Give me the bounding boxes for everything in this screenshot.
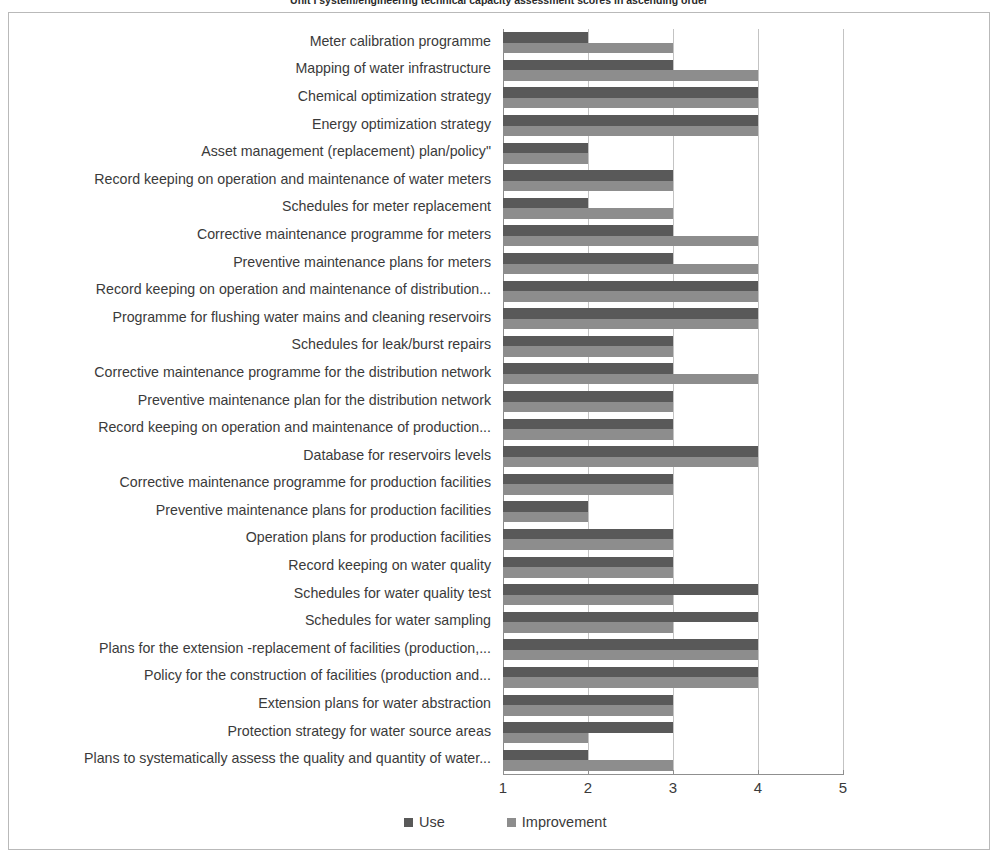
category-label: Record keeping on operation and maintena… <box>94 172 491 187</box>
bar-use[interactable] <box>503 225 673 236</box>
bar-use[interactable] <box>503 198 588 209</box>
bar-use[interactable] <box>503 695 673 706</box>
legend-entry-use: Use <box>404 814 445 830</box>
gridline-3 <box>673 29 674 774</box>
bar-use[interactable] <box>503 60 673 71</box>
bar-improvement[interactable] <box>503 346 673 357</box>
bar-improvement[interactable] <box>503 208 673 219</box>
legend-entry-improvement: Improvement <box>507 814 607 830</box>
bar-improvement[interactable] <box>503 402 673 413</box>
bar-use[interactable] <box>503 529 673 540</box>
bar-use[interactable] <box>503 308 758 319</box>
bar-use[interactable] <box>503 32 588 43</box>
bar-use[interactable] <box>503 363 673 374</box>
x-tick-1 <box>503 770 504 775</box>
bar-improvement[interactable] <box>503 677 758 688</box>
category-label: Database for reservoirs levels <box>303 448 491 463</box>
legend-swatch-improvement-icon <box>507 818 516 827</box>
category-label: Corrective maintenance programme for met… <box>197 227 491 242</box>
bar-use[interactable] <box>503 281 758 292</box>
bar-improvement[interactable] <box>503 291 758 302</box>
bar-improvement[interactable] <box>503 70 758 81</box>
category-label: Policy for the construction of facilitie… <box>144 668 491 683</box>
category-label: Preventive maintenance plans for product… <box>156 503 491 518</box>
category-label: Asset management (replacement) plan/poli… <box>201 144 491 159</box>
bar-use[interactable] <box>503 474 673 485</box>
bar-improvement[interactable] <box>503 43 673 54</box>
bar-improvement[interactable] <box>503 236 758 247</box>
bar-improvement[interactable] <box>503 319 758 330</box>
category-label: Extension plans for water abstraction <box>258 696 491 711</box>
x-axis-line <box>503 774 843 775</box>
bar-use[interactable] <box>503 87 758 98</box>
bar-improvement[interactable] <box>503 539 673 550</box>
bar-improvement[interactable] <box>503 98 758 109</box>
gridline-4 <box>758 29 759 774</box>
bar-use[interactable] <box>503 143 588 154</box>
category-label: Record keeping on operation and maintena… <box>98 420 491 435</box>
bar-improvement[interactable] <box>503 429 673 440</box>
category-label: Schedules for meter replacement <box>282 199 491 214</box>
chart-page: Unit I system/engineering technical capa… <box>0 0 998 859</box>
bar-improvement[interactable] <box>503 484 673 495</box>
bar-improvement[interactable] <box>503 126 758 137</box>
bar-use[interactable] <box>503 115 758 126</box>
x-tick-5 <box>843 770 844 775</box>
bar-use[interactable] <box>503 667 758 678</box>
plot-area: Meter calibration programmeMapping of wa… <box>9 29 991 774</box>
bar-use[interactable] <box>503 722 673 733</box>
x-tick-label: 4 <box>754 779 762 797</box>
bar-use[interactable] <box>503 446 758 457</box>
category-label: Plans for the extension -replacement of … <box>99 641 491 656</box>
bar-improvement[interactable] <box>503 705 673 716</box>
x-tick-2 <box>588 770 589 775</box>
bar-use[interactable] <box>503 391 673 402</box>
legend-label-improvement: Improvement <box>522 814 607 830</box>
bar-use[interactable] <box>503 501 588 512</box>
bar-use[interactable] <box>503 639 758 650</box>
x-tick-label: 2 <box>584 779 592 797</box>
bar-improvement[interactable] <box>503 264 758 275</box>
category-label: Programme for flushing water mains and c… <box>113 310 492 325</box>
category-label: Preventive maintenance plans for meters <box>233 255 491 270</box>
bar-use[interactable] <box>503 584 758 595</box>
category-label: Corrective maintenance programme for the… <box>94 365 491 380</box>
x-tick-3 <box>673 770 674 775</box>
category-label: Schedules for water quality test <box>294 586 491 601</box>
bar-use[interactable] <box>503 336 673 347</box>
category-label: Schedules for leak/burst repairs <box>291 337 491 352</box>
bar-use[interactable] <box>503 557 673 568</box>
bar-use[interactable] <box>503 170 673 181</box>
bar-improvement[interactable] <box>503 650 758 661</box>
category-label: Meter calibration programme <box>310 34 491 49</box>
bar-improvement[interactable] <box>503 181 673 192</box>
bar-improvement[interactable] <box>503 512 588 523</box>
category-label: Mapping of water infrastructure <box>295 61 491 76</box>
plot-canvas <box>503 29 843 774</box>
category-label: Chemical optimization strategy <box>298 89 491 104</box>
chart-legend: Use Improvement <box>404 813 606 831</box>
x-axis-tick-labels: 12345 <box>503 779 843 799</box>
bar-use[interactable] <box>503 750 588 761</box>
category-label: Operation plans for production facilitie… <box>246 530 491 545</box>
x-tick-label: 3 <box>669 779 677 797</box>
category-label: Energy optimization strategy <box>312 117 491 132</box>
category-label: Protection strategy for water source are… <box>228 724 491 739</box>
bar-improvement[interactable] <box>503 733 588 744</box>
bar-improvement[interactable] <box>503 595 673 606</box>
bar-use[interactable] <box>503 253 673 264</box>
bar-improvement[interactable] <box>503 374 758 385</box>
x-tick-label: 5 <box>839 779 847 797</box>
bar-improvement[interactable] <box>503 567 673 578</box>
chart-title: Unit I system/engineering technical capa… <box>0 0 998 6</box>
bar-improvement[interactable] <box>503 457 758 468</box>
bar-use[interactable] <box>503 419 673 430</box>
legend-label-use: Use <box>419 814 445 830</box>
bar-improvement[interactable] <box>503 153 588 164</box>
legend-swatch-use-icon <box>404 818 413 827</box>
chart-frame: Meter calibration programmeMapping of wa… <box>8 12 990 850</box>
bar-use[interactable] <box>503 612 758 623</box>
x-tick-4 <box>758 770 759 775</box>
category-axis-labels: Meter calibration programmeMapping of wa… <box>9 29 495 774</box>
bar-improvement[interactable] <box>503 622 673 633</box>
